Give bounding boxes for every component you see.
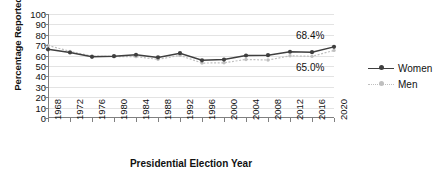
y-axis-tick [44,87,48,88]
x-axis-title: Presidential Election Year [48,158,334,169]
y-axis-tick [44,24,48,25]
data-point [222,57,226,61]
x-tick-label: 2000 [228,99,239,120]
x-tick-label: 1984 [140,99,151,120]
x-axis-tick [334,118,335,122]
data-point [68,50,72,54]
data-point [134,53,138,57]
data-point [266,58,269,61]
x-tick-label: 1968 [52,99,63,120]
data-point [156,55,160,59]
x-tick-label: 2012 [294,99,305,120]
data-point [90,55,94,59]
y-axis-tick [44,108,48,109]
y-axis-tick [44,45,48,46]
legend-label-women: Women [398,63,432,74]
data-point [244,53,248,57]
y-axis-tick [44,76,48,77]
x-tick-label: 1992 [184,99,195,120]
data-label-women: 68.4% [296,30,324,41]
x-tick-label: 1972 [74,99,85,120]
data-point [266,53,270,57]
x-tick-label: 2008 [272,99,283,120]
data-point [200,58,204,62]
data-point [46,47,50,51]
x-tick-label: 1988 [162,99,173,120]
series-line-men [48,45,334,63]
data-point [244,58,247,61]
x-axis-tick-labels: 1968197219761980198419881992199620002004… [48,120,334,152]
legend-label-men: Men [398,79,417,90]
x-tick-label: 2004 [250,99,261,120]
data-point [112,54,116,58]
x-tick-label: 2016 [316,99,327,120]
data-label-men: 65.0% [296,62,324,73]
legend-item-men[interactable]: Men [368,76,445,92]
x-tick-label: 2020 [338,99,349,120]
y-axis-tick [44,35,48,36]
data-point [288,50,292,54]
data-point [332,45,336,49]
chart-legend: Women Men [368,60,445,92]
chart-container: Percentage Reported Voting 1009080706050… [0,0,445,176]
y-axis-tick [44,56,48,57]
y-axis-tick-labels: 1009080706050403020100 [18,0,46,176]
data-point [332,49,335,52]
x-tick-label: 1996 [206,99,217,120]
y-axis-tick [44,66,48,67]
data-point [310,50,314,54]
y-axis-tick [44,14,48,15]
legend-item-women[interactable]: Women [368,60,445,76]
data-point [288,54,291,57]
data-point [178,51,182,55]
x-tick-label: 1980 [118,99,129,120]
x-tick-label: 1976 [96,99,107,120]
legend-swatch-women-icon [368,63,394,73]
legend-swatch-men-icon [368,79,394,89]
data-point [310,55,313,58]
y-axis-tick [44,97,48,98]
